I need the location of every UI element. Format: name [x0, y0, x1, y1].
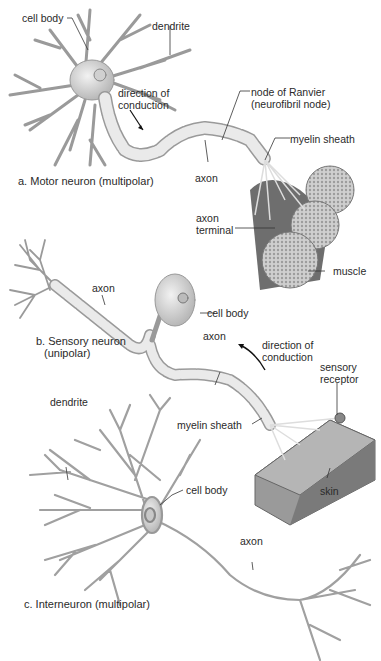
motor-neuron-title: a. Motor neuron (multipolar) [18, 175, 154, 187]
sensory-receptor-label-1: sensory [320, 361, 357, 373]
muscle-label: muscle [333, 265, 366, 277]
axon-terminal-label-1: axon [196, 212, 219, 224]
axon-terminal-label-2: terminal [196, 224, 233, 236]
motor-dendrite-label: dendrite [152, 20, 190, 32]
interneuron-title: c. Interneuron (multipolar) [24, 598, 150, 610]
sensory-myelin-label: myelin sheath [177, 419, 242, 431]
node-of-ranvier-label-1: node of Ranvier [251, 86, 325, 98]
motor-axon-label: axon [195, 172, 218, 184]
interneuron-axon-label: axon [240, 535, 263, 547]
interneuron-dendrite-label: dendrite [50, 396, 88, 408]
sensory-neuron [10, 240, 270, 425]
sensory-neuron-title-1: b. Sensory neuron [36, 335, 126, 347]
sensory-axon-right-label: axon [203, 330, 226, 342]
motor-direction-label-2: conduction [118, 99, 169, 111]
sensory-direction-label-2: conduction [262, 351, 313, 363]
motor-myelin-label: myelin sheath [290, 133, 355, 145]
sensory-axon-left-label: axon [92, 282, 115, 294]
node-of-ranvier-label-2: (neurofibril node) [251, 98, 330, 110]
skin-label: skin [320, 485, 339, 497]
motor-cell-body-label: cell body [22, 12, 63, 24]
sensory-receptor-label-2: receptor [320, 373, 359, 385]
motor-direction-label-1: direction of [118, 87, 169, 99]
sensory-neuron-title-2: (unipolar) [44, 347, 90, 359]
sensory-cell-body-label: cell body [207, 307, 248, 319]
interneuron-cell-body-label: cell body [186, 484, 227, 496]
sensory-direction-label-1: direction of [262, 339, 313, 351]
